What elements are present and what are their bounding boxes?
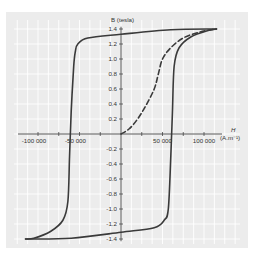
- chart-frame: [6, 12, 248, 248]
- x-tick-label: 50 000: [153, 137, 172, 144]
- y-tick-label: -0.4: [106, 160, 117, 167]
- y-tick-label: 0.6: [108, 85, 117, 92]
- x-tick-label: -100 000: [22, 137, 47, 144]
- y-tick-label: 0.8: [108, 70, 117, 77]
- hysteresis-chart: -100 000-50 00050 000100 0001.41.21.00.8…: [0, 0, 256, 256]
- y-tick-label: 1.2: [108, 40, 117, 47]
- y-tick-label: 0.4: [108, 100, 117, 107]
- x-tick-label: 100 000: [193, 137, 216, 144]
- y-tick-label: -1.2: [106, 220, 117, 227]
- x-axis-unit: (A.m⁻¹): [220, 134, 240, 141]
- y-tick-label: -0.2: [106, 145, 117, 152]
- x-tick-label: -50 000: [65, 137, 87, 144]
- y-tick-label: -0.6: [106, 175, 117, 182]
- y-tick-label: -0.8: [106, 190, 117, 197]
- y-tick-label: -1.4: [106, 235, 117, 242]
- y-tick-label: -1.0: [106, 205, 117, 212]
- y-tick-label: 1.0: [108, 55, 117, 62]
- y-axis-label: B (tesla): [111, 16, 134, 23]
- y-tick-label: 0.2: [108, 115, 117, 122]
- x-axis-label: H: [231, 126, 236, 133]
- y-tick-label: 1.4: [108, 25, 117, 32]
